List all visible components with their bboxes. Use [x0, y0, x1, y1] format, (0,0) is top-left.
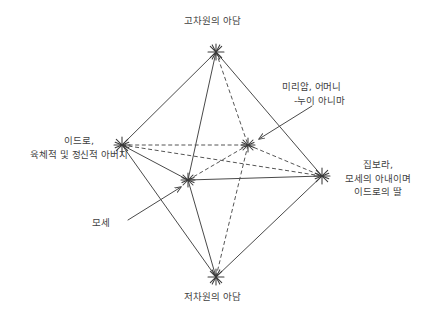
edge-high_adam-jethro — [122, 52, 216, 145]
node-label-zipporah-line1: 집보라, — [332, 158, 424, 172]
edge-miriam-zipporah — [248, 145, 322, 176]
edge-high_adam-miriam — [216, 52, 248, 145]
edge-moses-miriam — [188, 145, 248, 180]
diagram-canvas: 고차원의 아담 저차원의 아담 이드로, 육체적 및 정신적 아버지 집보라, … — [0, 0, 425, 319]
edge-high_adam-moses — [188, 52, 216, 180]
node-label-miriam-line1: 미리암, 어머니 — [282, 80, 422, 94]
node-label-zipporah: 집보라, 모세의 아내이며 이드로의 딸 — [332, 158, 424, 199]
node-miriam[interactable] — [241, 138, 255, 152]
node-label-high-adam-text: 고차원의 아담 — [184, 15, 240, 26]
edge-low_adam-zipporah — [216, 176, 322, 277]
edge-moses-zipporah — [188, 176, 322, 180]
node-label-jethro-line2: 육체적 및 정신적 아버지 — [4, 148, 154, 162]
edge-low_adam-moses — [188, 180, 216, 277]
node-label-miriam-line2: -누이 아니마 — [282, 94, 422, 108]
edge-high_adam-zipporah — [216, 52, 322, 176]
edge-low_adam-jethro — [122, 145, 216, 277]
node-label-moses: 모세 — [92, 216, 152, 230]
node-label-low-adam-text: 저차원의 아담 — [184, 291, 240, 302]
edge-low_adam-miriam — [216, 145, 248, 277]
node-low_adam[interactable] — [208, 269, 224, 285]
node-label-jethro: 이드로, 육체적 및 정신적 아버지 — [4, 134, 154, 161]
node-high_adam[interactable] — [208, 44, 224, 60]
node-label-high-adam: 고차원의 아담 — [0, 14, 425, 28]
node-label-miriam: 미리암, 어머니 -누이 아니마 — [282, 80, 422, 107]
node-zipporah[interactable] — [314, 168, 330, 184]
node-moses[interactable] — [181, 173, 195, 187]
node-label-jethro-line1: 이드로, — [4, 134, 154, 148]
node-label-moses-text: 모세 — [92, 217, 110, 228]
node-label-zipporah-line3: 이드로의 딸 — [332, 185, 424, 199]
node-label-zipporah-line2: 모세의 아내이며 — [332, 172, 424, 186]
node-label-low-adam: 저차원의 아담 — [0, 290, 425, 304]
